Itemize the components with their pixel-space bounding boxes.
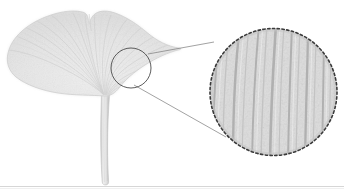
leaf-figure-canvas <box>0 0 344 194</box>
figure-root: Fan-shaped ginkgo leaf specimen on white… <box>0 0 344 194</box>
